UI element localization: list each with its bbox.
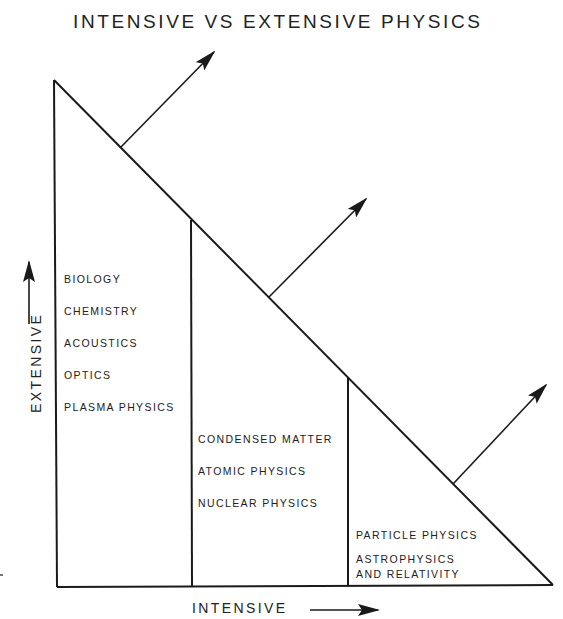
- region-item: BIOLOGY: [64, 273, 121, 285]
- hypotenuse: [54, 80, 553, 585]
- region-item: NUCLEAR PHYSICS: [198, 497, 318, 509]
- bottom-edge: [57, 585, 553, 587]
- region-item: AND RELATIVITY: [356, 568, 460, 580]
- region-item: OPTICS: [64, 369, 112, 381]
- left-edge: [54, 80, 57, 587]
- region-item: ACOUSTICS: [64, 337, 138, 349]
- region-item: CHEMISTRY: [64, 305, 138, 317]
- divider-1: [191, 220, 192, 587]
- y-axis-label: EXTENSIVE: [28, 313, 44, 413]
- arrow-3-icon: [453, 385, 546, 484]
- triangle-outline: [54, 80, 553, 587]
- diagram-title: INTENSIVE VS EXTENSIVE PHYSICS: [73, 11, 483, 33]
- arrow-2-icon: [269, 199, 366, 297]
- region-item: ASTROPHYSICS: [356, 553, 455, 565]
- region-item: PLASMA PHYSICS: [64, 401, 175, 413]
- arrow-1-icon: [120, 52, 214, 148]
- x-axis-label: INTENSIVE: [192, 600, 288, 616]
- region-item: ATOMIC PHYSICS: [198, 465, 306, 477]
- region-item: PARTICLE PHYSICS: [356, 529, 478, 541]
- region-item: CONDENSED MATTER: [198, 433, 333, 445]
